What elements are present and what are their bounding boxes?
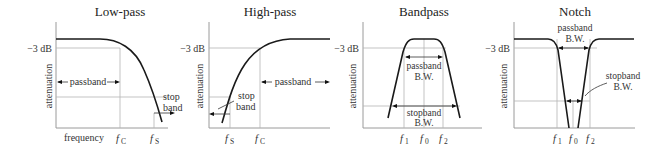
tick-f2-sub: 2: [591, 137, 595, 146]
panel-notch: Notch −3 dB attenuation passband B.W. st…: [485, 4, 640, 146]
arrow-left-icon: [57, 80, 62, 84]
passband-label-2: B.W.: [565, 34, 584, 44]
arrow-left-icon: [209, 112, 214, 116]
stopband-label-2: band: [163, 102, 182, 113]
stopband-label: stopband: [606, 71, 641, 81]
tick-fc-sub: C: [121, 137, 126, 146]
arrow-left-icon: [261, 80, 266, 84]
y-axis-label: attenuation: [498, 64, 509, 108]
panel-title: Bandpass: [399, 4, 449, 19]
tick-f1-sub: 1: [558, 137, 562, 146]
tick-f0-sub: 0: [425, 137, 429, 146]
response-curve-left: [514, 39, 569, 128]
stopband-label: stopband: [407, 108, 442, 118]
passband-label: passband: [70, 76, 107, 87]
db-label: −3 dB: [27, 43, 52, 54]
db-label: −3 dB: [180, 43, 205, 54]
arrow-left-icon: [392, 104, 397, 108]
panel-low-pass: Low-pass −3 dB attenuation passband stop…: [27, 4, 182, 146]
stopband-label-2: band: [236, 101, 255, 112]
panel-high-pass: High-pass −3 dB attenuation passband sto…: [180, 4, 330, 146]
passband-label-2: B.W.: [414, 72, 433, 82]
db-label: −3 dB: [334, 43, 359, 54]
filter-types-diagram: Low-pass −3 dB attenuation passband stop…: [0, 0, 660, 154]
x-axis-label: frequency: [64, 132, 104, 143]
arrow-left-icon: [405, 55, 410, 59]
panel-bandpass: Bandpass −3 dB attenuation passband B.W.…: [334, 4, 482, 146]
stopband-label-2: B.W.: [414, 118, 433, 128]
passband-label: passband: [558, 23, 593, 33]
tick-f2-sub: 2: [444, 137, 448, 146]
tick-fs-sub: S: [155, 137, 159, 146]
tick-fs-sub: S: [230, 137, 234, 146]
arrow-right-icon: [115, 80, 120, 84]
passband-label: passband: [275, 76, 312, 87]
passband-label: passband: [407, 61, 442, 71]
panel-title: High-pass: [244, 4, 297, 19]
y-axis-label: attenuation: [194, 64, 205, 108]
leader-line: [585, 83, 607, 96]
y-axis-label: attenuation: [347, 64, 358, 108]
panel-title: Low-pass: [95, 4, 146, 19]
stopband-label-2: B.W.: [613, 82, 632, 92]
arrow-right-icon: [584, 46, 589, 50]
arrow-right-icon: [325, 80, 330, 84]
stopband-label: stop: [163, 91, 180, 102]
arrow-left-icon: [558, 46, 563, 50]
db-label: −3 dB: [485, 43, 510, 54]
arrow-left-icon: [566, 99, 571, 103]
y-axis-label: attenuation: [43, 64, 54, 108]
tick-fc-sub: C: [260, 137, 265, 146]
arrow-right-icon: [438, 55, 443, 59]
panel-title: Notch: [559, 4, 591, 19]
stopband-label: stop: [238, 90, 255, 101]
tick-f1-sub: 1: [405, 137, 409, 146]
tick-f0-sub: 0: [574, 137, 578, 146]
